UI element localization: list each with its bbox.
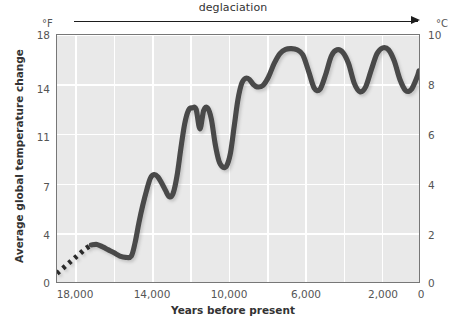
left-axis-unit: °F <box>42 18 53 29</box>
right-axis-unit: °C <box>436 18 448 29</box>
y-tick-left-18: 18 <box>20 29 50 41</box>
y-tick-right-8: 8 <box>428 79 458 91</box>
x-tick-6000: 6,000 <box>271 288 341 300</box>
deglaciation-label: deglaciation <box>0 1 466 14</box>
y-tick-right-6: 6 <box>428 129 458 141</box>
x-tick-0: 0 <box>386 288 456 300</box>
chart-figure: deglaciation °F °C 18 14 11 7 4 0 10 8 6… <box>0 0 466 321</box>
deglaciation-arrow-line <box>74 21 418 22</box>
x-tick-10000: 10,000 <box>194 288 264 300</box>
curve-solid-segment <box>91 48 419 258</box>
y-tick-right-4: 4 <box>428 179 458 191</box>
y-axis-title: Average global temperature change <box>13 41 25 271</box>
temperature-curve <box>57 35 419 282</box>
x-tick-18000: 18,000 <box>40 288 110 300</box>
right-arrow-icon <box>411 16 420 24</box>
curve-dotted-segment <box>57 245 91 273</box>
plot-area <box>56 34 420 283</box>
x-axis-title: Years before present <box>0 304 466 316</box>
x-tick-14000: 14,000 <box>117 288 187 300</box>
y-tick-right-2: 2 <box>428 229 458 241</box>
y-tick-right-10: 10 <box>428 29 458 41</box>
